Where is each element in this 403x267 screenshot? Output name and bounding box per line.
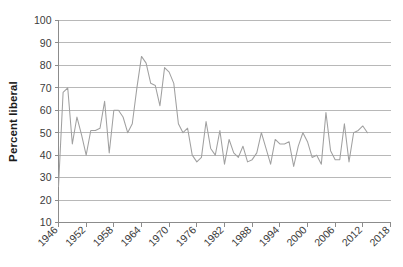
- y-tick-label: 40: [40, 149, 52, 161]
- y-tick-label: 50: [40, 127, 52, 139]
- y-tick-label: 90: [40, 37, 52, 49]
- y-tick-label: 20: [40, 194, 52, 206]
- chart-background: [0, 0, 403, 267]
- y-tick-label: 100: [34, 14, 52, 26]
- y-axis-label-text: Percent liberal: [7, 81, 19, 162]
- y-tick-label: 70: [40, 82, 52, 94]
- line-chart: 100908070605040302010 194619521958196419…: [0, 0, 403, 267]
- y-tick-label: 30: [40, 171, 52, 183]
- y-axis-title: Percent liberal: [7, 81, 19, 162]
- chart-container: 100908070605040302010 194619521958196419…: [0, 0, 403, 267]
- y-tick-label: 60: [40, 104, 52, 116]
- y-tick-label: 80: [40, 59, 52, 71]
